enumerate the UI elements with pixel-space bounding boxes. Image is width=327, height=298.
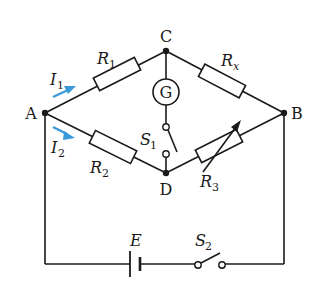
switch-s2[interactable] <box>195 253 225 268</box>
label-s2: S 2 <box>195 231 212 253</box>
label-rx: R x <box>220 51 240 73</box>
switch-s1[interactable] <box>163 124 177 157</box>
svg-text:1: 1 <box>57 79 64 92</box>
node-c-label: C <box>160 27 172 46</box>
node-b-dot <box>281 110 287 116</box>
svg-text:2: 2 <box>205 240 212 253</box>
label-i2: I 2 <box>50 138 65 160</box>
label-r1: R 1 <box>96 49 116 71</box>
svg-text:1: 1 <box>109 58 116 71</box>
node-a-dot <box>42 110 48 116</box>
svg-text:x: x <box>233 60 240 73</box>
svg-text:I: I <box>50 138 58 157</box>
node-d-label: D <box>160 180 173 199</box>
svg-text:3: 3 <box>212 181 219 194</box>
svg-text:R: R <box>199 172 212 191</box>
label-r2: R 2 <box>89 158 109 180</box>
svg-text:R: R <box>89 158 102 177</box>
label-s1: S 1 <box>140 130 157 152</box>
label-battery-e: E <box>129 231 142 250</box>
circuit-diagram: G C A B D R 1 R x R <box>0 0 327 298</box>
svg-text:R: R <box>220 51 233 70</box>
label-r3: R 3 <box>199 172 219 194</box>
rheostat-r3 <box>195 129 242 162</box>
svg-text:2: 2 <box>58 147 65 160</box>
svg-text:1: 1 <box>150 139 157 152</box>
svg-text:I: I <box>49 70 57 89</box>
galvanometer-label: G <box>160 83 173 102</box>
svg-text:2: 2 <box>102 167 109 180</box>
node-d-dot <box>163 170 169 176</box>
battery <box>130 251 140 277</box>
galvanometer: G <box>153 79 179 105</box>
node-b-label: B <box>291 104 303 123</box>
label-i1: I 1 <box>49 70 64 92</box>
node-c-dot <box>163 48 169 54</box>
node-a-label: A <box>24 104 37 123</box>
svg-text:R: R <box>96 49 109 68</box>
